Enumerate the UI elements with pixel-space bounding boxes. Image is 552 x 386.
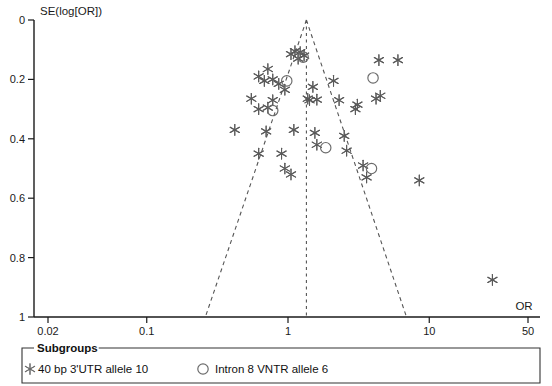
x-axis-tick-labels: 0.020.111050 [37,325,534,337]
x-tick-label: 50 [522,325,534,337]
data-point-asterisk [308,82,317,93]
data-point-asterisk [312,94,321,105]
data-point-asterisk [374,55,383,66]
data-point-asterisk [310,128,319,139]
data-point-asterisk [303,93,312,104]
funnel-line-right [306,20,406,317]
data-point-asterisk [254,71,263,82]
x-tick-label: 0.02 [37,325,58,337]
data-point-asterisk [342,145,351,156]
data-point-asterisk [329,76,338,87]
legend: Subgroups 40 bp 3'UTR allele 10 Intron 8… [22,342,540,383]
data-point-asterisk [289,125,298,136]
y-tick-label: 1 [19,311,25,323]
legend-title: Subgroups [37,342,98,354]
y-tick-label: 0.8 [10,252,25,264]
data-point-asterisk [25,364,34,375]
x-tick-label: 1 [285,325,291,337]
data-point-asterisk [488,275,497,286]
asterisk-icon [25,364,34,375]
plot-axes [28,20,540,323]
y-tick-label: 0.6 [10,192,25,204]
data-point-asterisk [254,104,263,115]
data-point-asterisk [268,74,277,85]
funnel-plot-svg: 00.20.40.60.81 0.020.111050 SE(log[OR]) … [0,0,552,386]
x-axis-ticks [48,317,528,323]
data-point-asterisk [263,64,272,75]
x-axis-title: OR [515,300,532,312]
data-point-asterisk [340,131,349,142]
y-tick-label: 0.4 [10,133,25,145]
data-point-asterisk [268,95,277,106]
y-axis-tick-labels: 00.20.40.60.81 [10,14,25,323]
legend-item-asterisk[interactable]: 40 bp 3'UTR allele 10 [25,363,148,375]
series-asterisk-points [230,46,497,285]
data-point-asterisk [260,76,269,87]
legend-item-circle[interactable]: Intron 8 VNTR allele 6 [198,363,328,375]
data-point-asterisk [247,93,256,104]
legend-item-label: 40 bp 3'UTR allele 10 [38,363,148,375]
data-point-asterisk [230,125,239,136]
circle-icon [198,364,208,374]
funnel-line-left [205,20,306,317]
y-tick-label: 0 [19,14,25,26]
y-axis-title: SE(log[OR]) [40,5,102,17]
funnel-plot-figure: 00.20.40.60.81 0.020.111050 SE(log[OR]) … [0,0,552,386]
y-axis-ticks [28,20,34,317]
x-tick-label: 0.1 [139,325,154,337]
data-point-asterisk [415,175,424,186]
data-point-asterisk [277,148,286,159]
data-point-asterisk [393,55,402,66]
data-point-circle [368,73,378,83]
x-tick-label: 10 [423,325,435,337]
data-point-asterisk [335,95,344,106]
y-tick-label: 0.2 [10,73,25,85]
data-point-circle [321,143,331,153]
legend-item-label: Intron 8 VNTR allele 6 [215,363,328,375]
